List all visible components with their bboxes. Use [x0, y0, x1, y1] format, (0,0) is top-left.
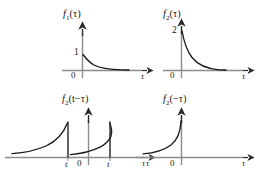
curve-f2 [182, 31, 226, 70]
f1-function-label: f1(τ) [63, 9, 81, 22]
f2-reverse-origin-label: 0 [170, 159, 175, 168]
curve-f1 [83, 55, 129, 71]
f2-reverse-tick-left-label: τ [146, 159, 149, 168]
curve-lobe-left [12, 123, 67, 154]
f2-reverse-xaxis-label: τ [242, 159, 245, 168]
f2-xaxis-label: τ [242, 72, 245, 81]
f2-origin-label: 0 [170, 71, 175, 80]
convolution-figure [0, 0, 264, 184]
f1-value-label: 1 [74, 48, 79, 58]
curve-f2-reversed [143, 121, 181, 154]
f2-shift-tick-right-label: t [107, 160, 110, 169]
panel-f2-minus-tau [136, 115, 248, 165]
f2-shift-tick-left-label: t [65, 160, 68, 169]
f2-shift-origin-label: 0 [77, 159, 82, 168]
f2-value-label: 2 [172, 26, 177, 36]
f1-xaxis-label: τ [141, 72, 144, 81]
f1-origin-label: 0 [71, 71, 76, 80]
f2-shift-xaxis-label: τ [142, 159, 145, 168]
f2-function-label: f2(τ) [163, 9, 181, 22]
f2-shift-function-label: f2(t−τ) [62, 94, 88, 107]
f2-reverse-function-label: f2(−τ) [163, 94, 187, 107]
curve-lobe-right [71, 123, 112, 155]
